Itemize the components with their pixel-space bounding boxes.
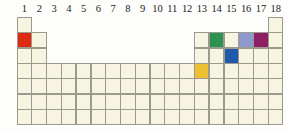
element-cell-g2-p4[interactable] (31, 63, 46, 79)
element-cell-g7-p4[interactable] (105, 63, 120, 79)
element-cell-g13-p3[interactable] (194, 48, 209, 64)
element-cell-g10-p7[interactable] (150, 109, 165, 125)
group-number-3: 3 (47, 2, 62, 16)
element-cell-g8-p7[interactable] (120, 109, 135, 125)
element-cell-g2-p7[interactable] (31, 109, 46, 125)
grid-gap (76, 32, 91, 47)
element-cell-g1-p6[interactable] (17, 94, 32, 110)
element-cell-g11-p4[interactable] (164, 63, 179, 79)
element-cell-g15-p7[interactable] (224, 109, 239, 125)
element-cell-g18-p2[interactable] (268, 32, 283, 48)
grid-gap (180, 32, 195, 47)
element-cell-g15-p6[interactable] (224, 94, 239, 110)
element-cell-g9-p7[interactable] (135, 109, 150, 125)
grid-gap (165, 17, 180, 32)
element-cell-g15-p4[interactable] (224, 63, 239, 79)
grid-gap (120, 17, 135, 32)
element-cell-g3-p5[interactable] (46, 78, 61, 94)
element-cell-g1-p4[interactable] (17, 63, 32, 79)
element-cell-g9-p5[interactable] (135, 78, 150, 94)
element-cell-g4-p7[interactable] (61, 109, 76, 125)
element-cell-g14-p7[interactable] (209, 109, 224, 125)
element-cell-g10-p5[interactable] (150, 78, 165, 94)
element-cell-g12-p4[interactable] (179, 63, 194, 79)
element-cell-g17-p3[interactable] (253, 48, 268, 64)
element-cell-g4-p5[interactable] (61, 78, 76, 94)
element-cell-g18-p1[interactable] (268, 17, 283, 33)
element-cell-g1-p5[interactable] (17, 78, 32, 94)
element-cell-g7-p7[interactable] (105, 109, 120, 125)
element-cell-g14-p6[interactable] (209, 94, 224, 110)
element-cell-g16-p3[interactable] (238, 48, 253, 64)
element-cell-g3-p4[interactable] (46, 63, 61, 79)
group-number-10: 10 (150, 2, 165, 16)
element-cell-g11-p6[interactable] (164, 94, 179, 110)
element-cell-g11-p5[interactable] (164, 78, 179, 94)
element-cell-g16-p6[interactable] (238, 94, 253, 110)
element-cell-g5-p4[interactable] (76, 63, 91, 79)
highlight-group17-period2[interactable] (253, 32, 268, 48)
element-cell-g17-p7[interactable] (253, 109, 268, 125)
element-cell-g16-p7[interactable] (238, 109, 253, 125)
element-cell-g13-p5[interactable] (194, 78, 209, 94)
element-cell-g12-p7[interactable] (179, 109, 194, 125)
element-cell-g8-p5[interactable] (120, 78, 135, 94)
element-cell-g11-p7[interactable] (164, 109, 179, 125)
element-cell-g3-p7[interactable] (46, 109, 61, 125)
element-cell-g18-p4[interactable] (268, 63, 283, 79)
element-cell-g14-p5[interactable] (209, 78, 224, 94)
grid-gap (76, 48, 91, 63)
element-cell-g12-p5[interactable] (179, 78, 194, 94)
element-cell-g14-p4[interactable] (209, 63, 224, 79)
highlight-group15-period3[interactable] (224, 48, 239, 64)
element-cell-g13-p7[interactable] (194, 109, 209, 125)
element-cell-g9-p6[interactable] (135, 94, 150, 110)
element-cell-g10-p6[interactable] (150, 94, 165, 110)
element-cell-g1-p3[interactable] (17, 48, 32, 64)
element-cell-g15-p2[interactable] (224, 32, 239, 48)
element-cell-g17-p5[interactable] (253, 78, 268, 94)
element-cell-g6-p6[interactable] (91, 94, 106, 110)
element-cell-g8-p4[interactable] (120, 63, 135, 79)
element-cell-g8-p6[interactable] (120, 94, 135, 110)
highlight-group1-period2[interactable] (17, 32, 32, 48)
element-cell-g16-p5[interactable] (238, 78, 253, 94)
element-cell-g14-p3[interactable] (209, 48, 224, 64)
element-cell-g2-p2[interactable] (31, 32, 46, 48)
element-cell-g10-p4[interactable] (150, 63, 165, 79)
element-cell-g13-p6[interactable] (194, 94, 209, 110)
highlight-group16-period2[interactable] (238, 32, 253, 48)
element-cell-g18-p6[interactable] (268, 94, 283, 110)
element-cell-g16-p4[interactable] (238, 63, 253, 79)
grid-gap (106, 48, 121, 63)
element-cell-g18-p7[interactable] (268, 109, 283, 125)
element-cell-g2-p5[interactable] (31, 78, 46, 94)
element-cell-g5-p6[interactable] (76, 94, 91, 110)
element-cell-g6-p4[interactable] (91, 63, 106, 79)
element-cell-g1-p7[interactable] (17, 109, 32, 125)
element-cell-g2-p3[interactable] (31, 48, 46, 64)
element-cell-g6-p7[interactable] (91, 109, 106, 125)
element-cell-g1-p1[interactable] (17, 17, 32, 33)
element-cell-g17-p6[interactable] (253, 94, 268, 110)
highlight-group14-period2[interactable] (209, 32, 224, 48)
element-cell-g2-p6[interactable] (31, 94, 46, 110)
element-cell-g7-p6[interactable] (105, 94, 120, 110)
element-cell-g5-p5[interactable] (76, 78, 91, 94)
element-cell-g9-p4[interactable] (135, 63, 150, 79)
element-cell-g3-p6[interactable] (46, 94, 61, 110)
element-cell-g7-p5[interactable] (105, 78, 120, 94)
group-number-13: 13 (194, 2, 209, 16)
element-cell-g15-p5[interactable] (224, 78, 239, 94)
element-cell-g12-p6[interactable] (179, 94, 194, 110)
element-cell-g5-p7[interactable] (76, 109, 91, 125)
element-cell-g4-p4[interactable] (61, 63, 76, 79)
element-cell-g13-p2[interactable] (194, 32, 209, 48)
element-cell-g17-p4[interactable] (253, 63, 268, 79)
element-cell-g18-p3[interactable] (268, 48, 283, 64)
element-cell-g4-p6[interactable] (61, 94, 76, 110)
highlight-group13-period4[interactable] (194, 63, 209, 79)
element-cell-g6-p5[interactable] (91, 78, 106, 94)
grid-gap (91, 17, 106, 32)
element-cell-g18-p5[interactable] (268, 78, 283, 94)
